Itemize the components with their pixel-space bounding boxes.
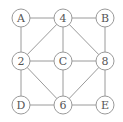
- node-2: 2: [12, 52, 30, 70]
- node-6: 6: [54, 96, 72, 114]
- node-label: C: [59, 55, 67, 68]
- node-label: A: [16, 12, 26, 25]
- node-D: D: [12, 96, 30, 114]
- node-label: D: [17, 99, 26, 112]
- node-C: C: [54, 52, 72, 70]
- node-label: 2: [18, 55, 25, 68]
- nodes-group: A4B2C8D6E: [12, 9, 114, 114]
- node-label: 8: [102, 55, 109, 68]
- node-4: 4: [54, 9, 72, 27]
- node-E: E: [96, 96, 114, 114]
- graph-diagram: A4B2C8D6E: [0, 0, 123, 122]
- node-label: 4: [60, 12, 67, 25]
- node-label: 6: [60, 99, 67, 112]
- node-A: A: [12, 9, 30, 27]
- node-B: B: [96, 9, 114, 27]
- node-label: B: [101, 12, 109, 25]
- node-label: E: [101, 99, 109, 112]
- node-8: 8: [96, 52, 114, 70]
